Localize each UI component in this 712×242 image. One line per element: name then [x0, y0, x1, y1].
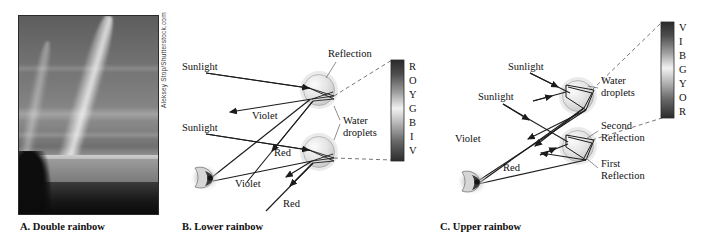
spectrum-letter-b-1: O [409, 75, 417, 86]
label-second-reflection-c-line1: Second [601, 120, 633, 131]
spectrum-letter-b-2: Y [409, 89, 417, 100]
ray-sunlight-upper-b-tail [206, 73, 311, 89]
label-violet-upper-b: Violet [252, 110, 278, 121]
ray-sunlight-lower-c-tail [503, 104, 568, 142]
spectrum-letter-c-3: G [679, 64, 687, 75]
label-sunlight-lower-c: Sunlight [478, 91, 514, 102]
spectrum-letter-b-0: R [409, 61, 416, 72]
spectrum-letter-b-3: G [409, 103, 417, 114]
spectrum-letter-b-6: V [409, 145, 417, 156]
leader-first-reflection-c [586, 158, 598, 168]
label-reflection-b: Reflection [328, 48, 372, 59]
label-violet-lower-b: Violet [235, 178, 261, 189]
label-second-reflection-c-line2: Reflection [601, 132, 645, 143]
spectrum-letter-b-5: I [410, 131, 414, 142]
spectrum-letter-c-5: O [679, 92, 687, 103]
label-first-reflection-c-line1: First [601, 158, 620, 169]
diagram-svg: Sunlight Sunlight Reflection Violet Red … [0, 0, 712, 242]
spectrum-bar-b [391, 60, 404, 161]
label-water-droplets-c-line1: Water [601, 75, 626, 86]
ray-sunlight-upper-c-tail [530, 73, 570, 93]
leader-water-droplets-b [334, 106, 340, 140]
spectrum-letter-c-6: R [679, 106, 686, 117]
projection-line-upper-b [334, 60, 392, 96]
figure-rainbow-formation: Aleksey Stop/Shutterstock.com A. Double … [0, 0, 712, 242]
label-red-c: Red [503, 162, 521, 173]
spectrum-bar-c [661, 22, 674, 118]
spectrum-letter-c-0: V [679, 22, 687, 33]
label-sunlight-lower-b: Sunlight [182, 122, 218, 133]
label-red-upper-b: Red [274, 147, 292, 158]
spectrum-letter-c-4: Y [679, 78, 687, 89]
label-water-droplets-b-line2: droplets [343, 127, 377, 138]
projection-line-lower-b [334, 158, 392, 160]
label-red-lower-b: Red [283, 198, 301, 209]
label-sunlight-upper-c: Sunlight [508, 61, 544, 72]
spectrum-letter-c-1: I [679, 36, 683, 47]
label-water-droplets-b-line1: Water [343, 115, 368, 126]
label-violet-c: Violet [455, 133, 481, 144]
label-sunlight-upper-b: Sunlight [182, 61, 218, 72]
spectrum-letter-c-2: B [679, 50, 686, 61]
label-first-reflection-c-line2: Reflection [601, 170, 645, 181]
observer-eye-c [456, 168, 488, 196]
spectrum-letter-b-4: B [409, 117, 416, 128]
label-water-droplets-c-line2: droplets [601, 87, 635, 98]
ray-sunlight-lower-b-tail [206, 134, 311, 151]
observer-eye-b [189, 164, 221, 192]
